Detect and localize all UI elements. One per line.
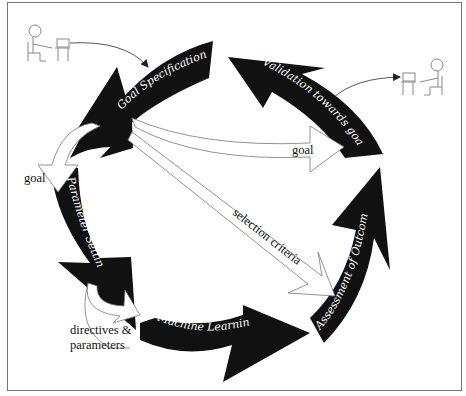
parameters-label: parameters <box>70 338 125 352</box>
goal-flow-label-left: goal <box>24 171 46 185</box>
user-to-goal-connector <box>70 43 148 67</box>
diagram-canvas: Goal Specification Validation towards go… <box>0 0 466 396</box>
person-at-computer-icon <box>28 25 70 61</box>
selection-criteria-label: selection criteria <box>230 205 304 268</box>
person-at-computer-icon <box>401 59 443 95</box>
goal-flow-label-right: goal <box>292 143 314 157</box>
cycle-diagram: Goal Specification Validation towards go… <box>0 0 466 396</box>
directives-label: directives & <box>70 323 132 337</box>
validation-to-user-connector <box>333 77 400 98</box>
